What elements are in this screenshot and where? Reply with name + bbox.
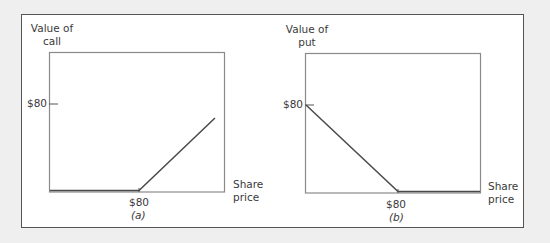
panel-a-caption: (a)	[131, 209, 146, 222]
panel-b-x-label-line2: price	[488, 193, 518, 206]
panel-b-y-label-line2: put	[284, 36, 330, 49]
panel-a-x-tick-label: $80	[129, 196, 149, 209]
option-payoff-diagrams	[0, 0, 550, 243]
panel-a-y-tick-label: $80	[27, 97, 47, 110]
panel-a-y-label-line2: call	[29, 35, 75, 48]
panel-b-plot	[305, 54, 481, 194]
panel-b-x-label-line1: Share	[488, 180, 518, 193]
panel-b-y-tick-label: $80	[283, 98, 303, 111]
panel-a-y-label-line1: Value of	[29, 22, 75, 35]
panel-a-plot	[49, 53, 225, 193]
panel-b-y-label-line1: Value of	[284, 23, 330, 36]
panel-a-x-axis-label: Share price	[233, 178, 263, 204]
panel-a-y-axis-label: Value of call	[29, 22, 75, 48]
panel-b-x-axis-label: Share price	[488, 180, 518, 206]
panel-b-x-tick-label: $80	[386, 198, 406, 211]
panel-a-x-label-line1: Share	[233, 178, 263, 191]
panel-a-x-label-line2: price	[233, 191, 263, 204]
panel-b-y-axis-label: Value of put	[284, 23, 330, 49]
panel-b-caption: (b)	[389, 211, 404, 224]
